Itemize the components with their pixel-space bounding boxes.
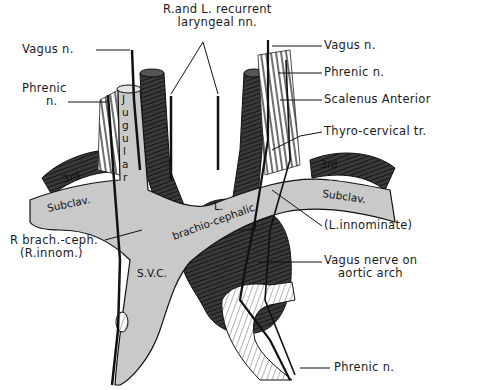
thyro-cervical-label: Thyro-cervical tr.	[324, 125, 427, 138]
vagus-left-label: Vagus n.	[22, 43, 74, 56]
third-right-label: 3rd	[320, 158, 337, 170]
l-brachio-label-1: L.	[214, 200, 223, 212]
jugular-cut-end	[117, 85, 141, 93]
vagus-right-label: Vagus n.	[324, 39, 376, 52]
svg-text:g: g	[122, 119, 129, 131]
phrenic-left-label-line1: Phrenic	[22, 82, 67, 95]
phrenic-right-label: Phrenic n.	[324, 66, 384, 79]
scalenus-anterior-label: Scalenus Anterior	[324, 93, 431, 106]
jugular-label: J u g u l a r	[121, 93, 129, 183]
right-carotid-cut-end	[140, 69, 164, 77]
svg-text:a: a	[122, 158, 128, 170]
phrenic-left-label-line2: n.	[22, 95, 67, 108]
svg-text:u: u	[122, 106, 129, 118]
phrenic-bottom-label: Phrenic n.	[334, 361, 394, 374]
anatomy-figure: J u g u l a r Subclav. Subclav. 3rd 3rd …	[0, 0, 487, 390]
l-innominate-label: (L.innominate)	[324, 219, 412, 232]
svg-text:r: r	[123, 171, 128, 183]
r-brach-ceph-label: R brach.-ceph. (R.innom.)	[10, 234, 98, 260]
recurrent-laryngeal-label-line2: laryngeal nn.	[163, 16, 272, 29]
vagus-aortic-label-line2: aortic arch	[324, 267, 417, 280]
phrenic-left-label: Phrenic n.	[22, 82, 67, 108]
svg-text:l: l	[123, 145, 126, 157]
svg-text:J: J	[121, 93, 125, 105]
vagus-aortic-label: Vagus nerve on aortic arch	[324, 254, 417, 280]
svg-text:u: u	[122, 132, 129, 144]
recurrent-laryngeal-label: R.and L. recurrent laryngeal nn.	[163, 3, 272, 29]
r-brach-ceph-label-line2: (R.innom.)	[10, 247, 98, 260]
svc-label: S.V.C.	[137, 267, 167, 279]
